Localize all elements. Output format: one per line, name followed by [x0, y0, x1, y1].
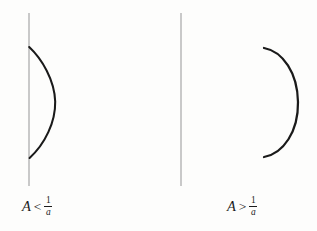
caption-left-relation: <: [34, 200, 42, 214]
caption-right: A > 1 a: [227, 196, 257, 217]
caption-right-numerator: 1: [250, 196, 257, 206]
caption-left-numerator: 1: [45, 196, 52, 206]
caption-left-fraction: 1 a: [44, 196, 52, 217]
caption-left: A < 1 a: [22, 196, 52, 217]
caption-right-denominator: a: [250, 207, 257, 217]
caption-right-relation: >: [239, 200, 247, 214]
curve-small-amplitude: [29, 47, 55, 158]
curve-large-amplitude: [264, 48, 298, 157]
caption-right-fraction: 1 a: [249, 196, 257, 217]
math-figure: A < 1 a A > 1 a: [0, 0, 317, 231]
caption-right-symbol: A: [227, 199, 236, 214]
caption-left-denominator: a: [45, 207, 52, 217]
caption-left-symbol: A: [22, 199, 31, 214]
